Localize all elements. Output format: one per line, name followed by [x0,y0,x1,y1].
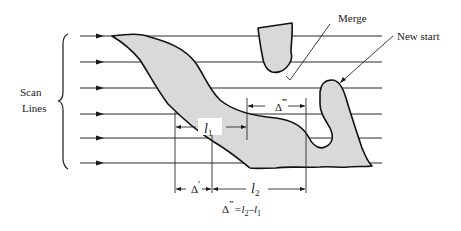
scan-lines-label-2: Lines [22,102,46,114]
l2-label: l2 [251,181,259,198]
delta-triple-label: Δ‴ [275,97,287,113]
delta-prime-label: Δ′ [191,179,200,195]
new-start-label: New start [397,30,439,42]
connected-region [112,34,372,168]
delta-formula: Δ″=l2–l1 [222,199,261,218]
merge-region [258,23,292,72]
diagram-canvas: l1 Δ‴ Δ′ l2 Δ″=l2–l1 Merge New start Sca… [0,0,461,231]
brace [58,34,68,169]
merge-label: Merge [338,12,367,24]
new-start-leader [340,36,393,83]
scan-lines-label-1: Scan [20,86,42,98]
